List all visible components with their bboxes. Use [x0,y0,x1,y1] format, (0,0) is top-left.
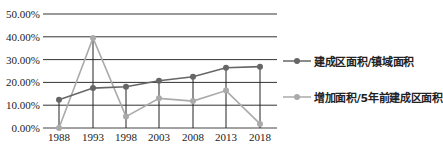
x-tick-2018: 2018 [245,131,275,143]
legend-marker-dark-icon [283,54,311,68]
legend-label: 建成区面积/镇域面积 [314,53,414,69]
data-point [90,85,96,91]
x-tick-2008: 2008 [178,131,208,143]
x-tick-2013: 2013 [211,131,241,143]
data-point [190,74,196,80]
data-point [123,84,129,90]
data-point [223,88,229,94]
data-point [257,64,263,70]
y-tick-40: 40.00% [0,31,40,43]
data-point [156,95,162,101]
y-tick-20: 20.00% [0,76,40,88]
y-tick-30: 30.00% [0,54,40,66]
x-tick-1998: 1998 [111,131,141,143]
data-point [223,65,229,71]
y-tick-10: 10.00% [0,99,40,111]
x-tick-1988: 1988 [44,131,74,143]
legend-marker-light-icon [283,90,311,104]
y-tick-50: 50.00% [0,8,40,20]
data-point [90,35,96,41]
data-point [123,114,129,120]
data-point [257,121,263,127]
legend-item-growth-ratio: 增加面积/5年前建成区面积 [283,90,443,104]
y-tick-0: 0.00% [0,122,40,134]
legend-label: 增加面积/5年前建成区面积 [314,89,443,105]
x-tick-2003: 2003 [144,131,174,143]
data-point [190,98,196,104]
x-tick-1993: 1993 [78,131,108,143]
data-point [156,78,162,84]
data-point [56,97,62,103]
legend-item-built-area-ratio: 建成区面积/镇域面积 [283,54,414,68]
